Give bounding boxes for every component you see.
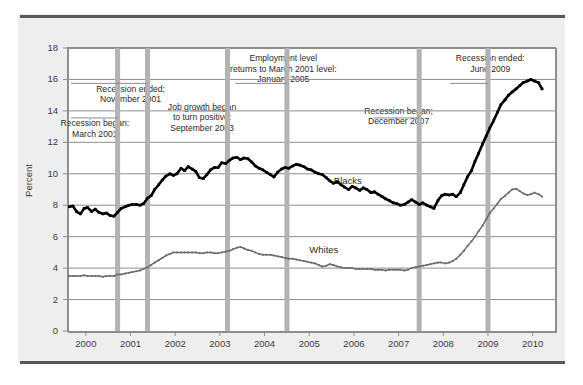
series-point <box>362 187 365 190</box>
series-point <box>243 248 245 250</box>
series-point <box>195 251 197 253</box>
series-point <box>254 251 256 253</box>
series-point <box>321 173 324 176</box>
series-point <box>131 203 134 206</box>
series-point <box>351 267 353 269</box>
series-point <box>158 259 160 261</box>
series-point <box>538 193 540 195</box>
series-point <box>150 194 153 197</box>
series-point <box>348 267 350 269</box>
series-point <box>265 254 267 256</box>
series-point <box>202 177 205 180</box>
series-point <box>537 81 540 84</box>
series-point <box>392 202 395 205</box>
series-point <box>72 205 75 208</box>
series-point <box>225 251 227 253</box>
series-point <box>437 262 439 264</box>
series-line-blacks <box>69 79 542 216</box>
series-point <box>113 275 115 277</box>
series-point <box>407 201 410 204</box>
series-point <box>287 167 290 170</box>
series-point <box>429 263 431 265</box>
series-point <box>336 180 339 183</box>
series-point <box>541 196 543 198</box>
series-point <box>120 207 123 210</box>
event-marker-employment-returns-2005 <box>284 48 289 331</box>
series-point <box>105 212 108 215</box>
series-point <box>198 252 200 254</box>
series-point <box>258 167 261 170</box>
event-marker-recession-began-2007 <box>417 48 422 331</box>
series-point <box>169 172 172 175</box>
series-point <box>504 195 506 197</box>
series-point <box>299 164 302 167</box>
series-point <box>522 81 525 84</box>
series-point <box>377 269 379 271</box>
plot-border <box>68 48 556 332</box>
series-point <box>180 251 182 253</box>
series-point <box>176 251 178 253</box>
series-point <box>374 269 376 271</box>
event-marker-job-growth-positive-2003 <box>225 48 230 331</box>
series-point <box>488 127 491 130</box>
series-point <box>310 169 313 172</box>
series-point <box>399 204 402 207</box>
series-point <box>113 215 116 218</box>
series-point <box>507 94 510 97</box>
series-point <box>317 172 320 175</box>
series-point <box>295 259 297 261</box>
series-point <box>332 264 334 266</box>
series-point <box>254 165 257 168</box>
series-point <box>500 103 503 106</box>
series-point <box>161 257 163 259</box>
series-point <box>451 193 454 196</box>
series-point <box>478 230 480 232</box>
series-point <box>76 275 78 277</box>
series-point <box>321 266 323 268</box>
series-point <box>467 245 469 247</box>
series-point <box>86 206 89 209</box>
series-point <box>224 162 227 165</box>
series-point <box>344 267 346 269</box>
series-point <box>265 171 268 174</box>
series-point <box>143 268 145 270</box>
series-point <box>314 171 317 174</box>
series-point <box>474 160 477 163</box>
series-point <box>262 169 265 172</box>
series-point <box>68 205 71 208</box>
series-point <box>463 183 466 186</box>
series-point <box>459 191 462 194</box>
series-point <box>392 269 394 271</box>
event-marker-recession-ended-2009 <box>485 48 490 331</box>
series-point <box>541 88 544 91</box>
series-point <box>299 259 301 261</box>
series-point <box>403 203 406 206</box>
series-point <box>359 268 361 270</box>
series-point <box>474 236 476 238</box>
series-point <box>440 194 443 197</box>
series-point <box>370 268 372 270</box>
series-point <box>388 199 391 202</box>
series-point <box>214 252 216 254</box>
series-point <box>310 262 312 264</box>
chart-figure: Percent 024681012141618 2000200120022003… <box>0 0 583 385</box>
series-point <box>504 99 507 102</box>
series-point <box>306 168 309 171</box>
series-point <box>295 163 298 166</box>
series-point <box>381 195 384 198</box>
series-point <box>165 255 167 257</box>
series-point <box>127 204 130 207</box>
series-point <box>404 270 406 272</box>
series-point <box>183 169 186 172</box>
series-point <box>396 269 398 271</box>
series-point <box>124 273 126 275</box>
series-point <box>116 211 119 214</box>
series-point <box>220 161 223 164</box>
series-point <box>366 188 369 191</box>
series-point <box>236 156 239 159</box>
series-point <box>437 199 440 202</box>
series-point <box>277 255 279 257</box>
series-point <box>485 218 487 220</box>
series-point <box>128 272 130 274</box>
series-point <box>173 251 175 253</box>
